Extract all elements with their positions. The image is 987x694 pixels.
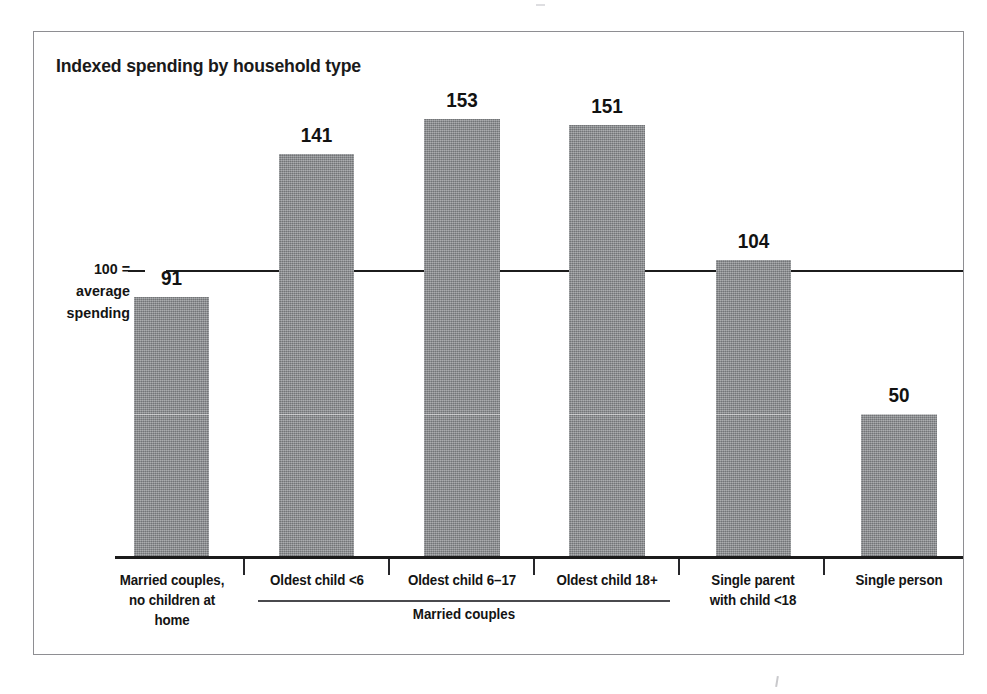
scan-artifact-line [115,414,963,415]
value-label-single-parent: 104 [720,229,788,253]
group-bracket-label: Married couples [274,606,653,622]
group-bracket-line [258,600,670,602]
category-label-line-2: with child <18 [695,590,811,610]
category-label-single-person: Single person [841,570,957,590]
category-label-line-1: Single parent [695,570,811,590]
reference-annotation-line-3: spending [53,302,130,324]
bar-single-parent-child-under-18 [716,260,791,557]
value-label-married-no-children: 91 [138,266,206,290]
category-label-line-1: Oldest child <6 [259,570,375,590]
value-label-oldest-child-18-plus: 151 [573,94,641,118]
category-label-single-parent: Single parent with child <18 [695,570,811,610]
bar-chart-plot-area: 100 = average spending 91 141 153 151 10… [0,0,987,694]
bar-married-no-children [134,297,209,557]
bar-single-person [861,414,937,557]
bar-oldest-child-18-plus [569,125,645,557]
axis-tick-1 [243,559,245,575]
category-label-line-2: no children at home [113,590,231,630]
reference-line-annotation: 100 = average spending [53,258,130,324]
category-label-oldest-child-6-17: Oldest child 6–17 [404,570,520,590]
axis-tick-2 [388,559,390,575]
axis-tick-3 [533,559,535,575]
bar-oldest-child-under-6 [279,154,354,557]
category-label-line-1: Oldest child 18+ [549,570,665,590]
value-label-single-person: 50 [865,383,933,407]
category-label-oldest-child-18-plus: Oldest child 18+ [549,570,665,590]
axis-tick-5 [823,559,825,575]
category-label-line-1: Married couples, [113,570,231,590]
reference-annotation-line-2: average [53,280,130,302]
value-label-oldest-child-6-17: 153 [428,88,496,112]
reference-annotation-line-1: 100 = [53,258,130,280]
axis-tick-4 [678,559,680,575]
category-label-oldest-child-under-6: Oldest child <6 [259,570,375,590]
bar-oldest-child-6-17 [424,119,500,557]
category-label-married-no-children: Married couples, no children at home [113,570,231,630]
value-label-oldest-child-under-6: 141 [283,123,351,147]
category-label-line-1: Single person [841,570,957,590]
screenshot-page: Indexed spending by household type 100 =… [0,0,987,694]
category-label-line-1: Oldest child 6–17 [404,570,520,590]
